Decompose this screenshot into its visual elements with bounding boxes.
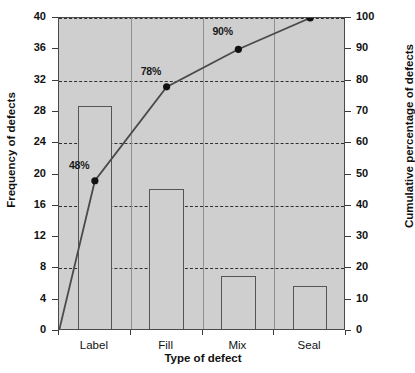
y-tick-left: [52, 17, 58, 18]
y-tick-label-right: 30: [356, 229, 368, 241]
plot-inner: 48%78%90%100%: [59, 18, 344, 329]
cumulative-line-layer: [59, 18, 344, 329]
y-tick-right: [345, 80, 351, 81]
y-tick-label-right: 0: [356, 323, 362, 335]
y-tick-left: [52, 267, 58, 268]
x-tick-label-mix: Mix: [197, 339, 277, 351]
y-tick-label-left: 40: [2, 10, 46, 22]
x-tick: [202, 330, 203, 335]
data-point-fill: [163, 83, 170, 90]
y-tick-left: [52, 111, 58, 112]
y-tick-label-right: 50: [356, 167, 368, 179]
y-tick-label-left: 32: [2, 73, 46, 85]
y-tick-right: [345, 111, 351, 112]
point-label-mix: 90%: [212, 25, 232, 37]
y-tick-left: [52, 174, 58, 175]
y-tick-left: [52, 80, 58, 81]
cumulative-line: [59, 18, 310, 329]
y-tick-label-right: 60: [356, 135, 368, 147]
data-point-label: [91, 177, 98, 184]
x-tick: [345, 330, 346, 335]
y-tick-label-right: 100: [356, 10, 374, 22]
x-tick: [273, 330, 274, 335]
y-axis-right-title: Cumulative percentage of defects: [403, 43, 415, 229]
y-tick-label-left: 8: [2, 260, 46, 272]
x-tick-label-fill: Fill: [126, 339, 206, 351]
y-tick-label-right: 90: [356, 41, 368, 53]
y-tick-left: [52, 236, 58, 237]
data-point-mix: [235, 46, 242, 53]
y-tick-label-left: 24: [2, 135, 46, 147]
x-tick-label-seal: Seal: [269, 339, 349, 351]
x-axis-title: Type of defect: [0, 352, 406, 364]
y-tick-left: [52, 48, 58, 49]
y-tick-label-right: 40: [356, 198, 368, 210]
y-tick-right: [345, 48, 351, 49]
y-tick-label-right: 70: [356, 104, 368, 116]
point-label-label: 48%: [69, 159, 89, 171]
y-tick-right: [345, 17, 351, 18]
x-tick-label-label: Label: [54, 339, 134, 351]
y-tick-label-right: 10: [356, 292, 368, 304]
y-tick-right: [345, 205, 351, 206]
y-tick-label-left: 16: [2, 198, 46, 210]
y-tick-label-left: 12: [2, 229, 46, 241]
y-tick-left: [52, 299, 58, 300]
y-tick-right: [345, 174, 351, 175]
y-tick-left: [52, 142, 58, 143]
y-tick-right: [345, 236, 351, 237]
y-tick-label-left: 20: [2, 167, 46, 179]
y-tick-label-right: 80: [356, 73, 368, 85]
y-tick-label-left: 0: [2, 323, 46, 335]
x-tick: [130, 330, 131, 335]
y-tick-right: [345, 267, 351, 268]
y-tick-left: [52, 205, 58, 206]
y-tick-right: [345, 142, 351, 143]
y-tick-label-left: 28: [2, 104, 46, 116]
data-point-seal: [307, 18, 314, 22]
y-tick-right: [345, 299, 351, 300]
y-tick-label-right: 20: [356, 260, 368, 272]
plot-area: 48%78%90%100%: [58, 17, 345, 330]
y-tick-label-left: 36: [2, 41, 46, 53]
y-tick-label-left: 4: [2, 292, 46, 304]
x-tick: [58, 330, 59, 335]
point-label-fill: 78%: [141, 65, 161, 77]
